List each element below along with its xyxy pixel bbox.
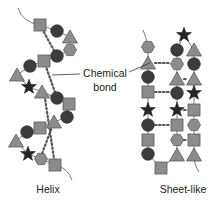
hexagon-unit-icon [64, 44, 77, 55]
circle-unit-icon [51, 25, 64, 38]
triangle-unit-icon [170, 148, 185, 161]
circle-unit-icon [51, 50, 64, 63]
star-unit-icon [177, 27, 192, 41]
triangle-unit-icon [35, 85, 50, 98]
circle-unit-icon [142, 71, 155, 84]
triangle-unit-icon [10, 68, 25, 81]
monomer-units [9, 19, 202, 174]
circle-unit-icon [171, 87, 184, 100]
square-unit-icon [171, 119, 183, 131]
hexagon-unit-icon [188, 119, 201, 130]
square-unit-icon [188, 134, 200, 146]
square-unit-icon [142, 86, 154, 98]
polymer-structure-diagram: Chemical bond Helix Sheet-like [0, 0, 217, 204]
square-unit-icon [63, 98, 75, 110]
square-unit-icon [49, 159, 61, 171]
square-unit-icon [188, 104, 200, 116]
triangle-unit-icon [141, 56, 156, 69]
triangle-unit-icon [63, 30, 78, 43]
callout: Chemical bond [52, 63, 150, 93]
circle-unit-icon [142, 119, 155, 132]
triangle-unit-icon [187, 72, 202, 85]
helix-label: Helix [36, 183, 60, 195]
callout-label-line2: bond [93, 81, 117, 93]
circle-unit-icon [188, 58, 201, 71]
circle-unit-icon [142, 148, 155, 161]
square-unit-icon [142, 134, 154, 146]
sheet-label: Sheet-like [160, 183, 207, 195]
hexagon-unit-icon [171, 58, 184, 69]
circle-unit-icon [61, 111, 74, 124]
hexagon-unit-icon [142, 41, 155, 52]
callout-leader-left [52, 74, 80, 75]
square-unit-icon [155, 162, 167, 174]
square-unit-icon [34, 122, 46, 134]
hexagon-unit-icon [35, 153, 48, 164]
callout-label-line1: Chemical [83, 67, 127, 79]
circle-unit-icon [171, 44, 184, 57]
triangle-unit-icon [170, 72, 185, 85]
square-unit-icon [34, 19, 46, 31]
square-unit-icon [38, 55, 50, 67]
triangle-unit-icon [187, 148, 202, 161]
hexagon-unit-icon [171, 134, 184, 145]
triangle-unit-icon [187, 43, 202, 56]
circle-unit-icon [21, 126, 34, 139]
circle-unit-icon [24, 60, 37, 73]
triangle-unit-icon [9, 134, 24, 147]
circle-unit-icon [51, 92, 64, 105]
